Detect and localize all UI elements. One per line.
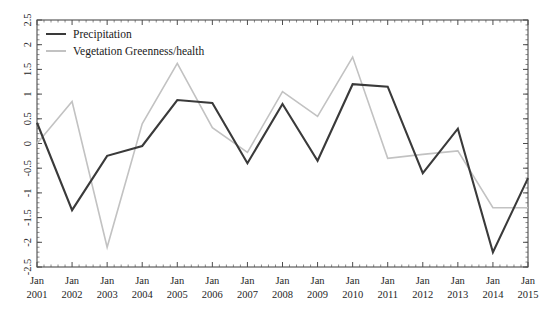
- x-tick-month-label: Jan: [486, 275, 501, 286]
- x-tick-month-label: Jan: [100, 275, 115, 286]
- x-tick-year-label: 2008: [272, 289, 293, 300]
- x-axis-minor-ticks: [44, 20, 521, 267]
- x-tick-month-label: Jan: [381, 275, 396, 286]
- y-tick-label: -0.5: [22, 160, 33, 177]
- x-tick-year-label: 2014: [482, 289, 504, 300]
- y-axis-minor-ticks: [37, 25, 528, 267]
- y-axis-tick-labels: 2.521.510.50-0.5-1-1.5-2-2.5: [22, 13, 33, 275]
- x-tick-year-label: 2006: [202, 289, 223, 300]
- x-tick-year-label: 2012: [412, 289, 433, 300]
- series-line-precipitation: [37, 84, 528, 252]
- legend-label: Precipitation: [73, 28, 132, 41]
- x-tick-month-label: Jan: [416, 275, 431, 286]
- x-tick-year-label: 2003: [97, 289, 118, 300]
- x-tick-year-label: 2004: [132, 289, 154, 300]
- y-tick-label: 0.5: [22, 112, 33, 125]
- y-tick-label: -1: [22, 189, 33, 198]
- x-tick-month-label: Jan: [311, 275, 326, 286]
- x-tick-year-label: 2010: [342, 289, 363, 300]
- x-tick-month-label: Jan: [451, 275, 466, 286]
- line-chart: 2.521.510.50-0.5-1-1.5-2-2.5 Jan2001Jan2…: [0, 0, 548, 314]
- x-tick-month-label: Jan: [276, 275, 291, 286]
- x-tick-year-label: 2009: [307, 289, 328, 300]
- x-tick-year-label: 2007: [237, 289, 258, 300]
- y-tick-label: -2: [22, 238, 33, 247]
- chart-legend: PrecipitationVegetation Greenness/health: [46, 28, 204, 58]
- x-tick-month-label: Jan: [346, 275, 361, 286]
- x-tick-month-label: Jan: [521, 275, 536, 286]
- x-axis-major-ticks: [37, 20, 528, 267]
- y-tick-label: 0: [22, 141, 33, 146]
- x-tick-month-label: Jan: [240, 275, 255, 286]
- plot-frame: [37, 20, 528, 267]
- legend-label: Vegetation Greenness/health: [73, 45, 204, 58]
- x-axis-tick-labels: Jan2001Jan2002Jan2003Jan2004Jan2005Jan20…: [27, 275, 539, 300]
- x-tick-year-label: 2011: [377, 289, 398, 300]
- y-axis-major-ticks: [37, 20, 528, 267]
- x-tick-month-label: Jan: [65, 275, 80, 286]
- series-lines: [37, 57, 528, 252]
- x-tick-year-label: 2005: [167, 289, 188, 300]
- x-tick-year-label: 2013: [447, 289, 468, 300]
- x-tick-month-label: Jan: [135, 275, 150, 286]
- x-tick-year-label: 2015: [518, 289, 539, 300]
- y-tick-label: 2.5: [22, 13, 33, 26]
- y-tick-label: -2.5: [22, 259, 33, 276]
- x-tick-year-label: 2002: [62, 289, 83, 300]
- x-tick-year-label: 2001: [27, 289, 48, 300]
- y-tick-label: 1: [22, 91, 33, 96]
- x-tick-month-label: Jan: [205, 275, 220, 286]
- y-tick-label: 1.5: [22, 63, 33, 76]
- y-tick-label: 2: [22, 42, 33, 47]
- y-tick-label: -1.5: [22, 209, 33, 226]
- x-tick-month-label: Jan: [170, 275, 185, 286]
- x-tick-month-label: Jan: [30, 275, 45, 286]
- series-line-vegetation: [37, 57, 528, 247]
- figure-container: 2.521.510.50-0.5-1-1.5-2-2.5 Jan2001Jan2…: [0, 0, 548, 314]
